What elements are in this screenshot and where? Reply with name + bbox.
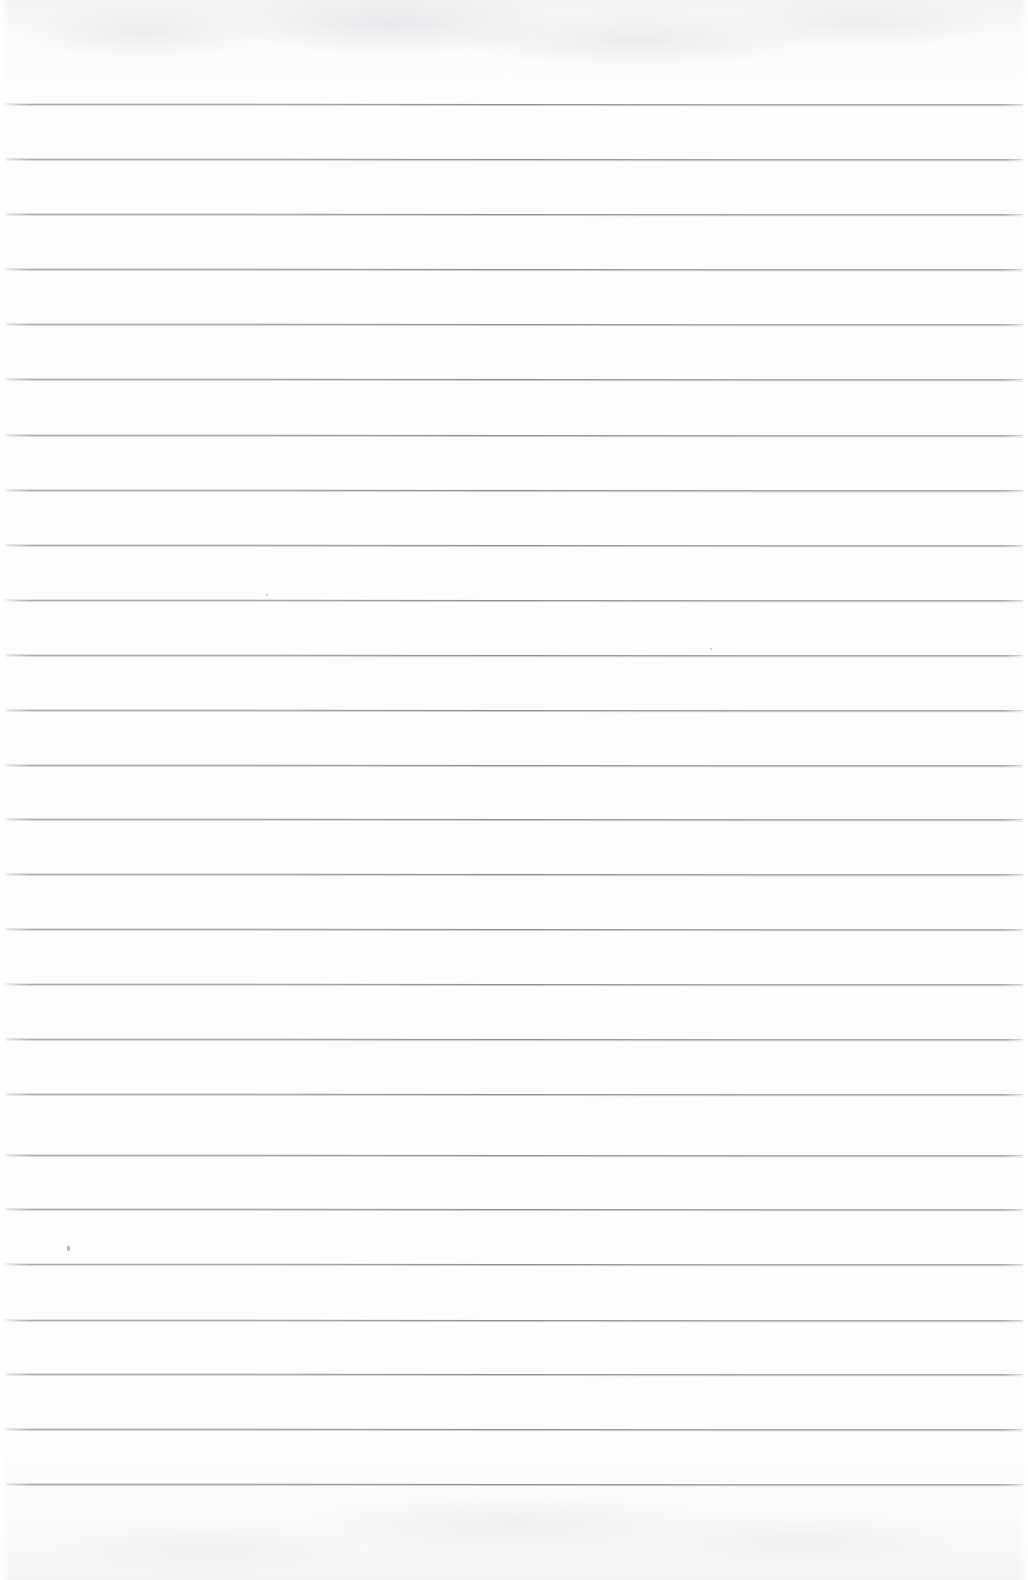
ruled-line: [5, 1264, 1023, 1266]
ruled-line: [5, 765, 1023, 767]
right-scan-edge: [1020, 0, 1028, 1580]
ruled-line: [5, 324, 1023, 326]
ruled-line: [5, 874, 1023, 876]
ruled-line: [5, 710, 1023, 712]
ruled-line: [5, 1484, 1023, 1486]
ruled-line: [5, 1039, 1023, 1041]
ruled-line: [5, 1374, 1023, 1376]
ruled-line: [5, 269, 1023, 271]
ruled-line: [5, 819, 1023, 821]
ruled-line: [5, 1094, 1023, 1096]
dust-fleck: [710, 648, 712, 650]
ruled-line: [5, 490, 1023, 492]
ruled-line: [5, 214, 1023, 216]
dust-fleck: [266, 594, 268, 596]
ruled-line: [5, 545, 1023, 547]
scanned-page: [0, 0, 1028, 1580]
paper-grain-overlay: [0, 0, 1028, 1580]
ruled-line: [5, 379, 1023, 381]
ruled-line: [5, 435, 1023, 437]
left-scan-edge: [0, 0, 9, 1580]
ruled-line: [5, 984, 1023, 986]
ruled-line: [5, 929, 1023, 931]
ink-speck: [67, 1246, 70, 1251]
ruled-line: [5, 655, 1023, 657]
ruled-line: [5, 600, 1023, 602]
ruled-line: [5, 104, 1023, 106]
ruled-line: [5, 1429, 1023, 1431]
ruled-line: [5, 1320, 1023, 1322]
ruled-line: [5, 1209, 1023, 1211]
ruled-line: [5, 159, 1023, 161]
ruled-line: [5, 1155, 1023, 1157]
